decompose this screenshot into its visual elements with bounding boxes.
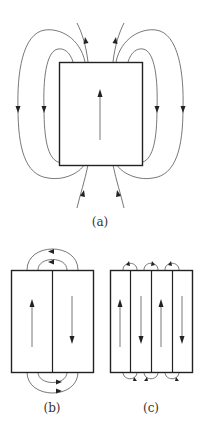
panel-label-a: (a) [92, 215, 109, 229]
magnetic-domains-diagram: (a) (b) [0, 0, 205, 435]
arrow-down-icon [42, 106, 47, 113]
arrow-up-icon [84, 37, 89, 44]
closure-arcs-bottom-b [27, 372, 78, 393]
panel-label-c: (c) [143, 401, 159, 415]
arrow-left-icon [48, 260, 54, 265]
panel-label-b: (b) [43, 401, 60, 415]
arrow-icon [151, 261, 155, 266]
panel-c: (c) [111, 261, 193, 415]
arrow-down-icon [155, 106, 160, 113]
domain-box-a [60, 63, 143, 166]
arrow-down-icon [16, 106, 21, 113]
arrow-up-icon [113, 37, 118, 44]
arrow-icon [126, 261, 130, 266]
arrow-left-icon [48, 249, 54, 254]
arrow-icon [168, 261, 172, 266]
arrow-down-icon [181, 106, 186, 113]
panel-b: (b) [12, 249, 94, 415]
panel-a: (a) [16, 23, 186, 229]
